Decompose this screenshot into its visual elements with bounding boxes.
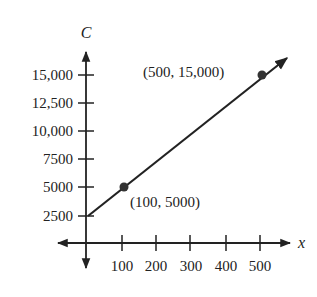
x-tick-labels: 100 200 300 400 500 <box>111 258 272 274</box>
cost-line <box>88 58 287 216</box>
x-axis-label: x <box>297 234 305 251</box>
x-tick-label: 100 <box>111 258 134 274</box>
chart: 15,000 12,500 10,000 7500 5000 2500 100 … <box>0 0 317 297</box>
y-tick-label: 10,000 <box>32 123 73 139</box>
x-tick-label: 400 <box>215 258 238 274</box>
x-tick-label: 300 <box>180 258 203 274</box>
data-point <box>120 183 129 192</box>
y-tick-label: 15,000 <box>32 67 73 83</box>
y-tick-label: 7500 <box>43 151 73 167</box>
point-label: (100, 5000) <box>130 194 200 211</box>
y-axis-label: C <box>81 24 92 41</box>
y-tick-labels: 15,000 12,500 10,000 7500 5000 2500 <box>32 67 73 224</box>
y-tick-label: 5000 <box>43 179 73 195</box>
x-tick-label: 500 <box>249 258 272 274</box>
y-tick-label: 12,500 <box>32 95 73 111</box>
y-tick-label: 2500 <box>43 208 73 224</box>
point-label: (500, 15,000) <box>143 64 224 81</box>
chart-svg: 15,000 12,500 10,000 7500 5000 2500 100 … <box>0 0 317 297</box>
x-tick-label: 200 <box>145 258 168 274</box>
data-point <box>258 71 267 80</box>
